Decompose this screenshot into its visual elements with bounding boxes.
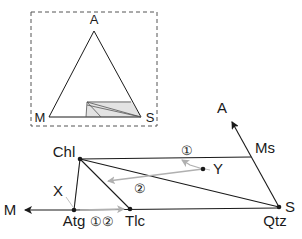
- inset-label-s: S: [146, 110, 155, 125]
- tie-line-chl-atg: [74, 159, 80, 210]
- tie-line-chl-tlc: [80, 159, 130, 209]
- label-a: A: [217, 99, 227, 116]
- label-qtz: Qtz: [263, 212, 286, 229]
- label-tlc: Tlc: [125, 212, 145, 229]
- inset-label-a: A: [90, 12, 99, 27]
- point-tlc: [128, 207, 133, 212]
- label-atg-markers: ①②: [90, 214, 114, 229]
- label-y: Y: [213, 160, 223, 177]
- point-qtz: [277, 205, 282, 210]
- main-projection: [25, 122, 279, 210]
- label-m: M: [4, 201, 17, 218]
- inset-ams-triangle: A M S: [31, 12, 157, 126]
- label-atg: Atg: [63, 212, 86, 229]
- label-x: X: [53, 182, 63, 199]
- tie-line-chl-ms: [80, 157, 251, 159]
- inset-label-m: M: [35, 110, 46, 125]
- phase-diagram: A M S Chl Ms A M S Qtz Atg: [0, 0, 302, 239]
- y-leader-line: [205, 169, 210, 170]
- point-y: [201, 167, 206, 172]
- label-reaction-1: ①: [181, 143, 193, 158]
- reaction-arrow-2: [108, 169, 203, 181]
- x-leader-line: [66, 197, 73, 207]
- a-axis-arrow: [232, 122, 279, 207]
- tie-line-chl-qtz: [80, 159, 279, 207]
- reaction-arrow-1: [182, 160, 203, 169]
- label-ms: Ms: [255, 139, 275, 156]
- label-chl: Chl: [53, 143, 76, 160]
- point-chl: [78, 157, 83, 162]
- label-reaction-2: ②: [134, 181, 146, 196]
